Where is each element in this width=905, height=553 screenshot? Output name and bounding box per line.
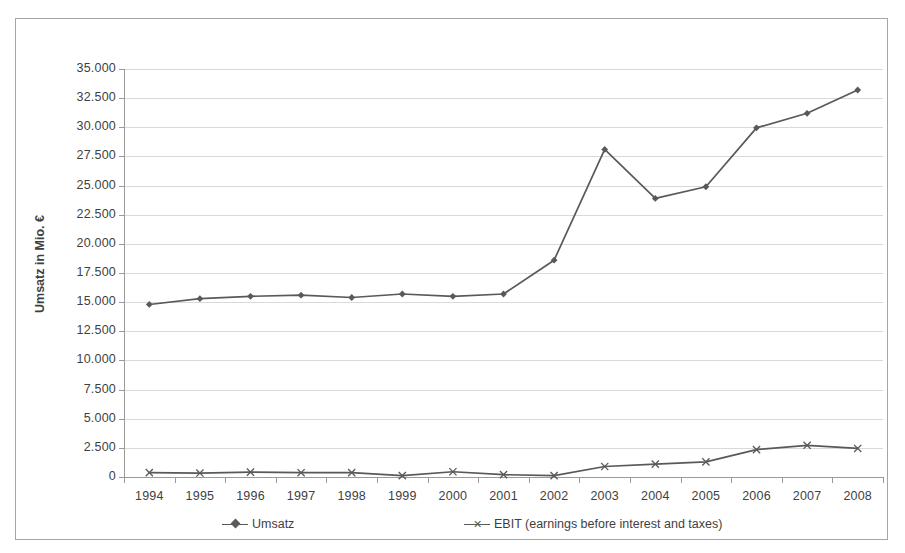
- gridline: [124, 69, 883, 70]
- chart-page: 02.5005.0007.50010.00012.50015.00017.500…: [0, 0, 905, 553]
- gridline: [124, 244, 883, 245]
- gridline: [124, 98, 883, 99]
- y-tick: [119, 360, 124, 361]
- plot-area: [124, 69, 883, 477]
- x-tick: [377, 478, 378, 483]
- legend-marker-x-icon: ✕: [464, 519, 490, 529]
- y-tick: [119, 448, 124, 449]
- x-tick-label: 2006: [731, 489, 782, 503]
- y-tick-label: 12.500: [56, 323, 116, 337]
- x-tick-label: 1995: [175, 489, 226, 503]
- x-axis-line: [124, 477, 884, 478]
- y-tick: [119, 215, 124, 216]
- x-tick: [225, 478, 226, 483]
- x-tick: [428, 478, 429, 483]
- legend-item-ebit[interactable]: ✕ EBIT (earnings before interest and tax…: [464, 517, 722, 531]
- x-tick: [681, 478, 682, 483]
- gridline: [124, 331, 883, 332]
- x-tick-label: 1997: [276, 489, 327, 503]
- y-tick-label: 2.500: [56, 440, 116, 454]
- y-axis-title: Umsatz in Mio. €: [33, 215, 47, 313]
- legend-item-umsatz[interactable]: Umsatz: [222, 517, 294, 531]
- x-tick: [124, 478, 125, 483]
- y-tick-label: 0: [56, 469, 116, 483]
- y-tick-label: 27.500: [56, 148, 116, 162]
- x-tick: [276, 478, 277, 483]
- x-tick-label: 2008: [832, 489, 883, 503]
- y-tick: [119, 98, 124, 99]
- x-tick: [529, 478, 530, 483]
- x-tick-label: 1996: [225, 489, 276, 503]
- x-tick-label: 2005: [681, 489, 732, 503]
- gridline: [124, 215, 883, 216]
- y-tick: [119, 69, 124, 70]
- x-tick: [579, 478, 580, 483]
- chart-legend: Umsatz ✕ EBIT (earnings before interest …: [124, 517, 884, 539]
- x-tick-label: 2000: [428, 489, 479, 503]
- gridline: [124, 419, 883, 420]
- x-tick: [782, 478, 783, 483]
- x-tick-label: 2004: [630, 489, 681, 503]
- y-tick: [119, 156, 124, 157]
- gridline: [124, 302, 883, 303]
- y-tick: [119, 186, 124, 187]
- y-tick-label: 17.500: [56, 265, 116, 279]
- x-tick: [883, 478, 884, 483]
- x-tick: [832, 478, 833, 483]
- x-tick-label: 2001: [478, 489, 529, 503]
- legend-label: Umsatz: [252, 517, 294, 531]
- y-tick-label: 32.500: [56, 90, 116, 104]
- chart-frame: 02.5005.0007.50010.00012.50015.00017.500…: [15, 18, 888, 540]
- x-tick: [478, 478, 479, 483]
- y-tick-label: 15.000: [56, 294, 116, 308]
- x-tick-label: 2003: [579, 489, 630, 503]
- x-tick: [630, 478, 631, 483]
- x-tick-label: 2002: [529, 489, 580, 503]
- legend-label: EBIT (earnings before interest and taxes…: [494, 517, 722, 531]
- x-tick: [326, 478, 327, 483]
- y-tick: [119, 302, 124, 303]
- y-tick-label: 30.000: [56, 119, 116, 133]
- gridline: [124, 273, 883, 274]
- x-tick: [175, 478, 176, 483]
- y-axis-labels: 02.5005.0007.50010.00012.50015.00017.500…: [51, 19, 116, 553]
- y-tick-label: 22.500: [56, 207, 116, 221]
- gridline: [124, 186, 883, 187]
- y-tick: [119, 331, 124, 332]
- y-tick-label: 25.000: [56, 178, 116, 192]
- gridline: [124, 127, 883, 128]
- x-tick-label: 2007: [782, 489, 833, 503]
- x-tick-label: 1998: [326, 489, 377, 503]
- legend-marker-diamond-icon: [222, 519, 248, 529]
- x-tick: [731, 478, 732, 483]
- gridline: [124, 390, 883, 391]
- x-tick-label: 1999: [377, 489, 428, 503]
- y-tick: [119, 127, 124, 128]
- y-tick: [119, 273, 124, 274]
- y-tick: [119, 390, 124, 391]
- y-tick-label: 5.000: [56, 411, 116, 425]
- y-tick-label: 7.500: [56, 382, 116, 396]
- y-axis-line: [124, 69, 125, 478]
- y-tick-label: 20.000: [56, 236, 116, 250]
- y-tick: [119, 419, 124, 420]
- gridline: [124, 360, 883, 361]
- y-tick-label: 35.000: [56, 61, 116, 75]
- y-tick: [119, 244, 124, 245]
- y-tick-label: 10.000: [56, 352, 116, 366]
- gridline: [124, 156, 883, 157]
- x-tick-label: 1994: [124, 489, 175, 503]
- gridline: [124, 448, 883, 449]
